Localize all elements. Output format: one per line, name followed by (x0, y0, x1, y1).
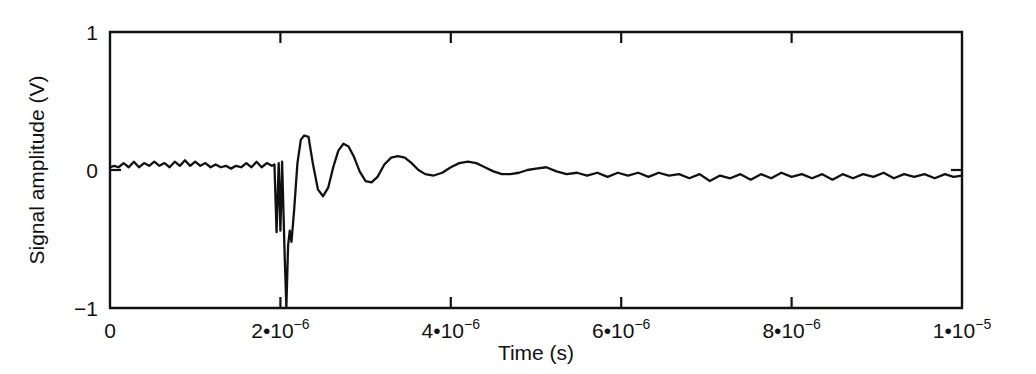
chart-background (0, 0, 1036, 374)
y-tick-label: 0 (86, 159, 98, 182)
x-axis-title: Time (s) (498, 341, 574, 364)
y-axis-title: Signal amplitude (V) (25, 75, 48, 264)
y-tick-label: −1 (74, 297, 98, 320)
chart-canvas: 02•10−64•10−66•10−68•10−61•10−5 10−1 Tim… (0, 0, 1036, 374)
signal-waveform-figure: 02•10−64•10−66•10−68•10−61•10−5 10−1 Tim… (0, 0, 1036, 374)
x-tick-label: 0 (104, 319, 116, 342)
y-tick-label: 1 (86, 21, 98, 44)
